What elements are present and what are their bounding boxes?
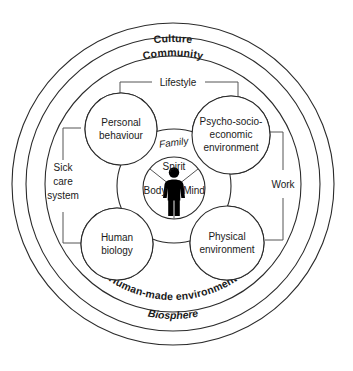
center-label-body: Body bbox=[144, 185, 167, 196]
mandala-of-health-diagram: Culture Community Human-made environment… bbox=[0, 0, 353, 371]
bracket-sick-care-bottom bbox=[63, 212, 81, 243]
node-label-human-biology-line-2: biology bbox=[101, 245, 133, 256]
center-label-mind: Mind bbox=[183, 185, 205, 196]
node-circle-personal-behaviour-outline bbox=[85, 93, 157, 165]
node-label-psycho-socio-economic-line-2: economic bbox=[210, 129, 253, 140]
bracket-sick-care-top bbox=[63, 128, 81, 160]
ring-label-community-text: Community bbox=[141, 46, 204, 61]
ring-label-biosphere-text: Biosphere bbox=[147, 307, 199, 321]
node-label-physical-environment-line-2: environment bbox=[199, 244, 254, 255]
bracket-label-sick-care-line-1: Sick bbox=[54, 162, 74, 173]
node-label-psycho-socio-economic-line-3: environment bbox=[203, 142, 258, 153]
node-label-personal-behaviour-line-2: behaviour bbox=[99, 130, 144, 141]
node-label-human-biology-line-1: Human bbox=[101, 232, 133, 243]
ring-label-community: Community bbox=[141, 46, 204, 61]
ring-label-culture: Culture bbox=[153, 32, 193, 45]
bracket-label-sick-care-line-3: system bbox=[47, 190, 79, 201]
bracket-work-bottom bbox=[265, 198, 283, 240]
node-label-psycho-socio-economic-line-1: Psycho-socio- bbox=[200, 116, 263, 127]
bracket-label-lifestyle: Lifestyle bbox=[160, 77, 197, 88]
node-circle-human-biology-outline bbox=[81, 208, 153, 280]
human-figure-leg-right bbox=[175, 200, 180, 217]
bracket-label-work: Work bbox=[271, 179, 295, 190]
node-label-physical-environment-line-1: Physical bbox=[208, 231, 245, 242]
bracket-label-sick-care-line-2: care bbox=[53, 176, 73, 187]
node-circle-physical-environment-outline bbox=[190, 206, 264, 280]
center-label-spirit: Spirit bbox=[163, 161, 186, 172]
node-label-personal-behaviour-line-1: Personal bbox=[101, 117, 140, 128]
diagram-canvas: Culture Community Human-made environment… bbox=[0, 0, 353, 371]
ring-label-biosphere: Biosphere bbox=[147, 307, 199, 321]
ring-label-culture-text: Culture bbox=[153, 32, 193, 45]
human-figure-leg-left bbox=[168, 200, 173, 217]
